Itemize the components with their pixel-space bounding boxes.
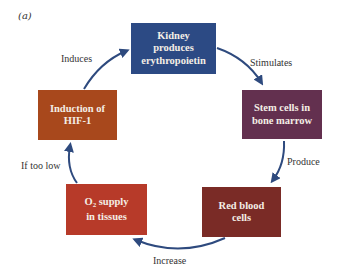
node-hif-line2: HIF-1 bbox=[50, 115, 105, 128]
edge-label-induces: Induces bbox=[61, 53, 92, 64]
node-stem-cells: Stem cells in bone marrow bbox=[242, 90, 322, 139]
arrow-if-too-low bbox=[69, 146, 77, 183]
node-kidney-line1: Kidney bbox=[141, 30, 206, 43]
edge-label-produce: Produce bbox=[287, 156, 320, 167]
node-kidney-produces-erythropoietin: Kidney produces erythropoietin bbox=[131, 23, 216, 74]
o2-line1-rest: supply bbox=[96, 196, 128, 207]
node-o2-supply: O2 supply in tissues bbox=[66, 184, 147, 235]
node-stem-line1: Stem cells in bbox=[252, 102, 312, 115]
node-induction-hif1: Induction of HIF-1 bbox=[38, 90, 117, 140]
edge-label-if-too-low: If too low bbox=[21, 160, 60, 171]
edge-label-stimulates: Stimulates bbox=[250, 57, 292, 68]
arrow-produce bbox=[273, 141, 284, 180]
diagram-canvas: (a) Kidney produces erythropoietin Stem … bbox=[0, 0, 346, 276]
node-rbc-line1: Red blood bbox=[219, 200, 265, 213]
node-hif-line1: Induction of bbox=[50, 103, 105, 116]
node-o2-line2: in tissues bbox=[84, 211, 128, 224]
node-rbc-line2: cells bbox=[219, 212, 265, 225]
node-red-blood-cells: Red blood cells bbox=[202, 187, 281, 237]
node-kidney-line3: erythropoietin bbox=[141, 55, 206, 68]
node-kidney-line2: produces bbox=[141, 42, 206, 55]
node-stem-line2: bone marrow bbox=[252, 115, 312, 128]
edge-label-increase: Increase bbox=[153, 255, 186, 266]
arrow-increase bbox=[136, 238, 225, 249]
node-o2-line1: O2 supply bbox=[84, 196, 128, 212]
o2-prefix: O bbox=[84, 196, 92, 207]
